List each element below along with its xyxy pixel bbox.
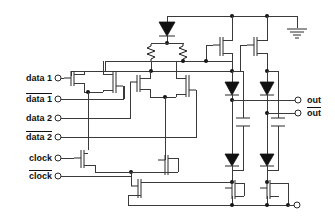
upper-left-load-diode bbox=[225, 82, 239, 95]
drain-lead bbox=[176, 61, 186, 78]
terminal-clock[interactable] bbox=[55, 155, 61, 161]
left-bypass-lower bbox=[232, 130, 243, 170]
circuit-schematic: data 1 data 1 data 2 data 2 clock clock … bbox=[0, 0, 335, 223]
left-load-resistor bbox=[147, 44, 155, 62]
data2-input-transistor bbox=[130, 71, 150, 97]
upper-bus-group bbox=[71, 45, 247, 76]
bias-terminal-circle[interactable] bbox=[294, 202, 300, 208]
drain-lead bbox=[168, 158, 178, 172]
label-data2: data 2 bbox=[8, 113, 52, 123]
terminal-data1[interactable] bbox=[55, 75, 61, 81]
input-terminals[interactable] bbox=[55, 75, 61, 179]
upper-right-load-diode bbox=[260, 82, 274, 95]
right-output-ladder bbox=[260, 69, 295, 184]
label-out-bar: out bbox=[307, 108, 321, 118]
bias-terminal[interactable] bbox=[288, 202, 300, 208]
right-bypass-lower bbox=[267, 130, 278, 170]
source-lead bbox=[257, 53, 267, 71]
drain-lead bbox=[257, 36, 267, 40]
source-lead bbox=[103, 90, 113, 92]
label-data2-bar: data 2 bbox=[8, 132, 52, 142]
drain-lead bbox=[223, 36, 232, 40]
label-clock-bar: clock bbox=[8, 171, 52, 181]
right-current-source-transistor bbox=[260, 180, 290, 207]
load-resistor-pair bbox=[147, 43, 187, 71]
data1-bar-input-transistor bbox=[103, 61, 123, 93]
label-data1: data 1 bbox=[8, 73, 52, 83]
lower-left-load-diode bbox=[225, 154, 239, 166]
source-lead bbox=[74, 83, 84, 92]
right-output-capacitor bbox=[271, 118, 285, 130]
left-buffer-transistor bbox=[204, 36, 232, 71]
terminal-out-bar[interactable] bbox=[295, 110, 301, 116]
clock-tail-transistor bbox=[61, 150, 95, 172]
tail-bus-group bbox=[95, 172, 178, 186]
terminal-data2-bar[interactable] bbox=[55, 134, 61, 140]
drain-lead bbox=[235, 183, 244, 196]
label-out: out bbox=[307, 95, 321, 105]
right-buffer-transistor bbox=[247, 36, 267, 71]
label-data1-bar: data 1 bbox=[8, 94, 52, 104]
source-lead bbox=[140, 89, 150, 97]
left-current-source-transistor bbox=[225, 180, 244, 207]
terminal-clock-bar[interactable] bbox=[55, 173, 61, 179]
source-lead bbox=[176, 94, 186, 97]
right-differential-pair bbox=[61, 61, 196, 160]
source-lead bbox=[223, 53, 232, 71]
terminal-data2[interactable] bbox=[55, 115, 61, 121]
output-terminals[interactable] bbox=[295, 97, 301, 116]
lower-right-load-diode bbox=[260, 154, 274, 166]
ground-symbol bbox=[287, 16, 307, 38]
terminal-out[interactable] bbox=[295, 97, 301, 103]
data2-route bbox=[61, 82, 130, 118]
schematic-canvas bbox=[0, 0, 335, 223]
data1-input-transistor bbox=[64, 71, 84, 92]
left-output-capacitor bbox=[236, 114, 250, 130]
source-lead bbox=[84, 165, 95, 172]
terminal-data1-bar[interactable] bbox=[55, 96, 61, 102]
top-rail-group bbox=[167, 14, 297, 36]
drain-lead bbox=[140, 71, 150, 78]
data2-bar-input-transistor bbox=[176, 61, 196, 97]
drain-lead bbox=[270, 183, 288, 205]
top-clamp-diode bbox=[159, 22, 175, 45]
label-clock: clock bbox=[8, 153, 52, 163]
